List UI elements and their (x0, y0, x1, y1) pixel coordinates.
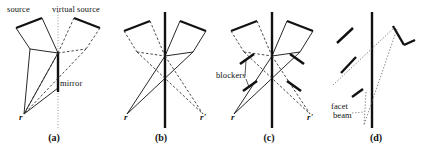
source-beam-bottom-edge (30, 49, 58, 53)
left-beam-left-edge (231, 31, 244, 52)
panel-a-lineart (16, 12, 100, 128)
blockers-label: blockers (216, 71, 246, 80)
blocker-lower-right (287, 81, 301, 91)
facet-segment-mid-left (341, 57, 356, 73)
panel-c-r-label: r (231, 113, 235, 122)
figure-lineart (0, 0, 427, 153)
source-beam-left-edge (16, 28, 30, 49)
panel-b-r-label: r (124, 113, 128, 122)
right-beam-top-edge (287, 21, 313, 31)
blockers-leader-lower (246, 79, 249, 87)
left-beam-top-edge (124, 21, 150, 31)
left-beam-right-edge (257, 21, 272, 56)
facet-beam-edge-upper (333, 27, 395, 85)
left-cone-ray-inner (165, 56, 203, 114)
right-beam-left-edge (165, 21, 180, 56)
right-cone-ray-inner (127, 56, 165, 114)
virtual-beam-top-edge (74, 18, 100, 28)
panel-a-r-label: r (19, 113, 23, 122)
right-beam-top-edge (180, 21, 206, 31)
facet-beam-edge-lower (364, 29, 397, 125)
panel-c-r-prime-label: r' (307, 113, 313, 122)
facet-beam-label-line2: beam (333, 111, 352, 120)
panel-caption-d: (d) (366, 132, 386, 143)
figure-container: source virtual source mirror r r r' bloc… (0, 0, 427, 153)
right-beam-right-edge (193, 31, 206, 52)
facet-segment-lower-right (404, 40, 415, 45)
panel-b-lineart (124, 12, 206, 128)
panel-caption-b: (b) (151, 132, 171, 143)
facet-beam-leader (352, 112, 364, 113)
source-beam-right-edge (42, 18, 58, 53)
mirror-label: mirror (60, 79, 82, 88)
left-beam-top-edge (231, 21, 257, 31)
facet-segment-upper-left (337, 28, 353, 43)
source-beam-top-edge (16, 18, 42, 28)
right-beam-right-edge (300, 31, 313, 52)
right-beam-left-edge (272, 21, 287, 56)
source-label: source (7, 5, 30, 14)
virtual-beam-bottom-edge (58, 49, 86, 53)
left-beam-right-edge (150, 21, 165, 56)
virtual-beam-left-edge (58, 18, 74, 53)
panel-caption-c: (c) (259, 132, 279, 143)
virtual-source-label: virtual source (52, 5, 100, 14)
facet-segment-lower-left (352, 89, 363, 97)
reflected-ray-a (24, 88, 58, 114)
panel-caption-a: (a) (44, 132, 64, 143)
virtual-beam-right-edge (86, 28, 100, 49)
panel-b-r-prime-label: r' (200, 113, 206, 122)
left-beam-left-edge (124, 31, 137, 52)
